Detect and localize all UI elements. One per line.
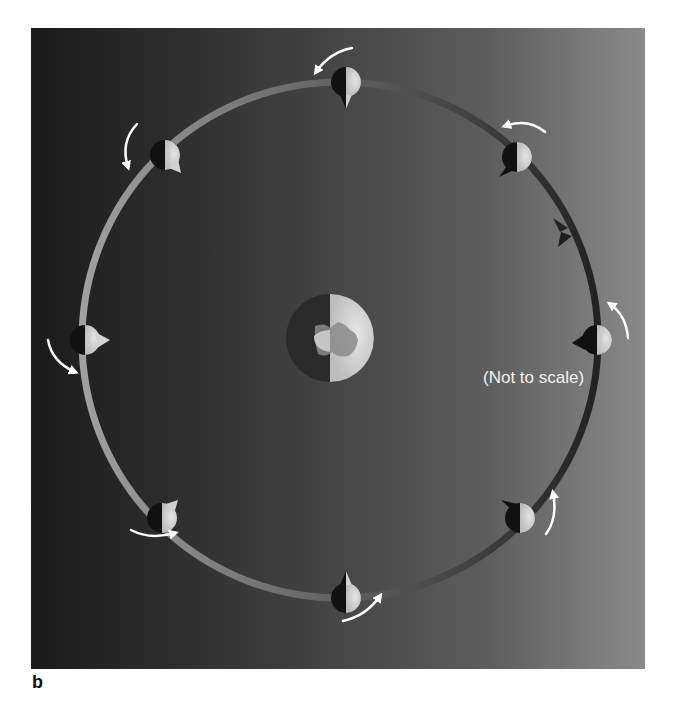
panel-label: b <box>32 672 43 693</box>
moon-lower-left <box>147 500 178 533</box>
earth <box>286 294 374 382</box>
moon-upper-right <box>499 142 532 177</box>
scale-caption: (Not to scale) <box>483 368 584 388</box>
moon-bottom <box>331 571 361 613</box>
rotation-arrow-icon <box>505 123 545 132</box>
rotation-arrow-icon <box>610 304 628 338</box>
moon-right <box>572 325 612 355</box>
orbit-diagram <box>0 0 677 711</box>
moon-left <box>70 325 110 355</box>
moon-top <box>331 67 361 109</box>
rotation-arrow-icon <box>125 124 137 167</box>
moon-lower-right <box>501 500 535 533</box>
